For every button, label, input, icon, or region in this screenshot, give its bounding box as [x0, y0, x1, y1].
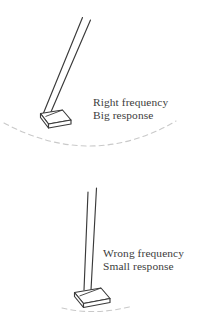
resonance-figure: Right frequency Big response Wrong frequ…: [0, 0, 199, 322]
panel-big-response: [4, 18, 176, 147]
label-big-response: Right frequency Big response: [93, 96, 168, 123]
rod-vertical: [84, 188, 97, 290]
swing-arc-short: [62, 306, 133, 312]
label-small-response-line1: Wrong frequency: [103, 247, 184, 260]
label-big-response-line1: Right frequency: [93, 96, 168, 109]
label-small-response: Wrong frequency Small response: [103, 247, 184, 274]
base-slab-vertical: [75, 288, 111, 308]
base-slab-tilted: [41, 110, 72, 128]
rod-tilted: [43, 18, 91, 117]
label-big-response-line2: Big response: [93, 109, 168, 122]
label-small-response-line2: Small response: [103, 260, 184, 273]
swing-arc-wide: [4, 121, 176, 146]
